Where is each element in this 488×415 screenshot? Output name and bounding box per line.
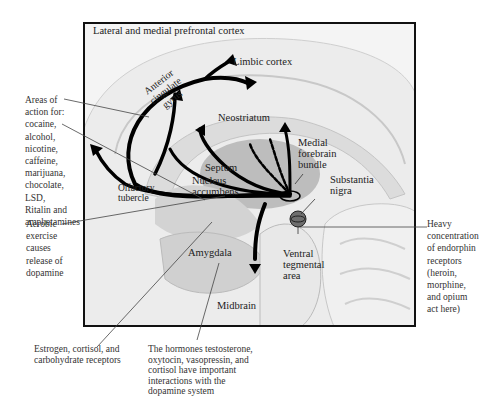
callout-line: of endorphin <box>427 242 479 254</box>
callout-line: dopamine system <box>148 386 253 397</box>
callout-line: cocaine, <box>25 118 80 130</box>
callout-line: Areas of <box>25 94 80 106</box>
label-nucleus-accumbens: Nucleus accumbens <box>192 175 239 197</box>
callout-areas-of-action: Areas of action for: cocaine, alcohol, n… <box>25 94 80 228</box>
label-ventral-tegmental-area: Ventral tegmental area <box>283 248 324 281</box>
label-midbrain: Midbrain <box>217 300 256 312</box>
label-prefrontal-cortex: Lateral and medial prefrontal cortex <box>93 25 245 37</box>
label-limbic-cortex: Limbic cortex <box>233 56 292 68</box>
callout-line: carbohydrate receptors <box>34 355 121 366</box>
callout-line: exercise <box>26 230 63 242</box>
callout-hormones: The hormones testosterone, oxytocin, vas… <box>148 344 253 397</box>
callout-line: oxytocin, vasopressin, and <box>148 355 253 366</box>
label-line: Nucleus <box>192 175 239 186</box>
callout-line: chocolate, <box>25 179 80 191</box>
label-line: accumbens <box>192 186 239 197</box>
callout-line: Aerobic <box>26 218 63 230</box>
callout-estrogen-receptors: Estrogen, cortisol, and carbohydrate rec… <box>34 344 121 366</box>
label-line: nigra <box>330 185 374 196</box>
callout-endorphin-receptors: Heavy concentration of endorphin recepto… <box>427 218 479 316</box>
callout-line: release of <box>26 255 63 267</box>
callout-line: act here) <box>427 303 479 315</box>
callout-line: morphine, <box>427 279 479 291</box>
callout-line: receptors <box>427 255 479 267</box>
callout-line: The hormones testosterone, <box>148 344 253 355</box>
callout-line: Heavy <box>427 218 479 230</box>
label-line: Ventral <box>283 248 324 259</box>
callout-line: interactions with the <box>148 376 253 387</box>
callout-line: causes <box>26 242 63 254</box>
callout-line: nicotine, <box>25 143 80 155</box>
label-amygdala: Amygdala <box>188 247 232 259</box>
callout-line: LSD, <box>25 192 80 204</box>
label-medial-forebrain-bundle: Medial forebrain bundle <box>298 137 336 170</box>
label-neostriatum: Neostriatum <box>218 112 270 124</box>
label-line: Olfactory <box>118 183 154 193</box>
callout-line: Ritalin and <box>25 204 80 216</box>
brain-illustration-frame: Lateral and medial prefrontal cortex Lim… <box>83 22 416 327</box>
label-line: Substantia <box>330 174 374 185</box>
callout-line: cortisol have important <box>148 365 253 376</box>
callout-line: Estrogen, cortisol, and <box>34 344 121 355</box>
callout-line: concentration <box>427 230 479 242</box>
callout-line: alcohol, <box>25 131 80 143</box>
callout-line: and opium <box>427 291 479 303</box>
label-line: bundle <box>298 159 336 170</box>
label-substantia-nigra: Substantia nigra <box>330 174 374 196</box>
label-line: forebrain <box>298 148 336 159</box>
label-line: Medial <box>298 137 336 148</box>
label-olfactory-tubercle: Olfactory tubercle <box>118 183 154 203</box>
label-line: tegmental <box>283 259 324 270</box>
label-line: area <box>283 270 324 281</box>
callout-line: action for: <box>25 106 80 118</box>
callout-line: dopamine <box>26 267 63 279</box>
callout-aerobic-exercise: Aerobic exercise causes release of dopam… <box>26 218 63 279</box>
callout-line: (heroin, <box>427 267 479 279</box>
callout-line: marijuana, <box>25 167 80 179</box>
label-line: tubercle <box>118 193 154 203</box>
label-septum: Septum <box>205 162 237 174</box>
callout-line: caffeine, <box>25 155 80 167</box>
